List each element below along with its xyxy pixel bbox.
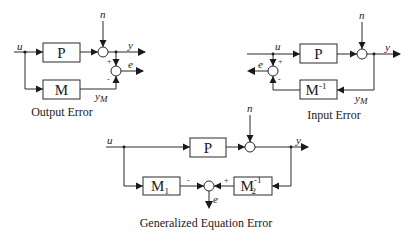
arrow-head-icon [272,183,279,190]
summing-junction [98,47,108,57]
sign-plus: + [224,176,229,185]
arrow-head-icon [247,67,255,75]
sign-minus: - [187,176,190,185]
arrow-head-icon [136,183,143,190]
sign-minus: - [278,75,281,84]
caption-generalized-equation-error: Generalized Equation Error [140,216,273,230]
model-block-label: M [55,82,68,98]
arrow-head-icon [270,59,277,66]
arrow-head-icon [113,59,120,66]
noise-label-n: n [100,8,106,20]
summing-junction [245,142,255,152]
error-summing-junction [111,66,121,76]
arrow-head-icon [293,51,300,58]
arrow-head-icon [138,48,146,56]
model-output-label: yM [354,92,368,106]
output-label-y: y [384,41,390,53]
output-label-y: y [127,39,133,51]
input-label-u: u [107,134,113,146]
error-label-e: e [258,58,263,70]
caption-input-error: Input Error [307,108,361,122]
arrow-head-icon [214,183,221,190]
arrow-head-icon [337,87,344,94]
noise-label-n: n [247,102,253,114]
arrow-head-icon [100,40,107,47]
plant-block-label: P [204,140,212,156]
arrow-head-icon [359,42,366,49]
caption-output-error: Output Error [31,105,93,119]
sign-plus: + [107,57,112,66]
error-label-e: e [128,58,133,70]
error-summing-junction [268,66,278,76]
arrow-head-icon [238,144,245,151]
plant-block-label: P [314,46,322,62]
sign-plus: + [278,57,283,66]
noise-label-n: n [359,9,365,21]
arrow-head-icon [270,76,277,83]
input-label-u: u [17,40,23,52]
arrow-head-icon [36,49,43,56]
arrow-head-icon [36,86,43,93]
input-label-u: u [275,40,281,52]
summing-junction [357,49,367,59]
arrow-head-icon [197,183,204,190]
arrow-head-icon [205,201,213,209]
sign-minus: - [107,75,110,84]
model-output-label: yM [94,90,108,104]
arrow-head-icon [393,50,401,58]
plant-block-label: P [57,45,65,61]
output-error-diagram: u P M n y + e - yM Output Error [14,8,146,119]
error-label-e: e [213,193,218,205]
arrow-head-icon [183,144,190,151]
arrow-head-icon [247,135,254,142]
error-summing-junction [204,181,214,191]
arrow-head-icon [136,67,144,75]
output-label-y: y [295,134,301,146]
arrow-head-icon [301,143,309,151]
generalized-equation-error-diagram: u P n y M1 M-12 - + e Generali [106,102,309,230]
arrow-head-icon [91,49,98,56]
arrow-head-icon [350,51,357,58]
block-diagram-figure: u P M n y + e - yM Output Error [0,0,417,241]
input-error-diagram: u + P n y yM M-1 - e Input Error [247,9,401,122]
arrow-head-icon [113,76,120,83]
